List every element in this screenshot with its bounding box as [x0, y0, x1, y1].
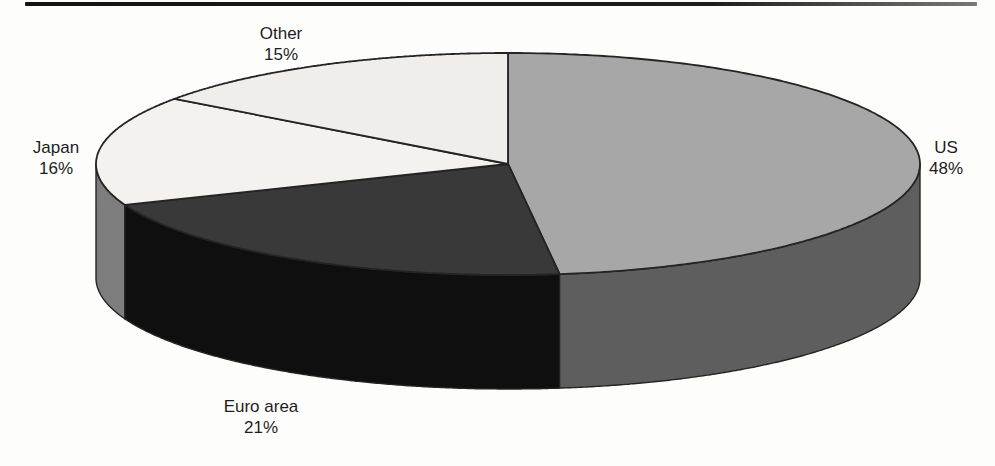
slice-label-euro-area-value: 21% — [224, 417, 299, 438]
slice-label-japan-value: 16% — [33, 158, 79, 179]
slice-label-euro-area: Euro area 21% — [224, 396, 299, 438]
pie-3d-svg — [0, 0, 995, 466]
slice-label-us-name: US — [929, 137, 963, 158]
slice-label-other: Other 15% — [260, 23, 303, 65]
slice-label-euro-area-name: Euro area — [224, 396, 299, 417]
pie-chart-figure: Other 15% Japan 16% US 48% Euro area 21% — [0, 0, 995, 466]
slice-label-us-value: 48% — [929, 158, 963, 179]
slice-label-other-value: 15% — [260, 44, 303, 65]
slice-label-japan-name: Japan — [33, 137, 79, 158]
scanned-figure-page: Other 15% Japan 16% US 48% Euro area 21% — [0, 0, 995, 466]
slice-label-other-name: Other — [260, 23, 303, 44]
slice-label-japan: Japan 16% — [33, 137, 79, 179]
slice-label-us: US 48% — [929, 137, 963, 179]
